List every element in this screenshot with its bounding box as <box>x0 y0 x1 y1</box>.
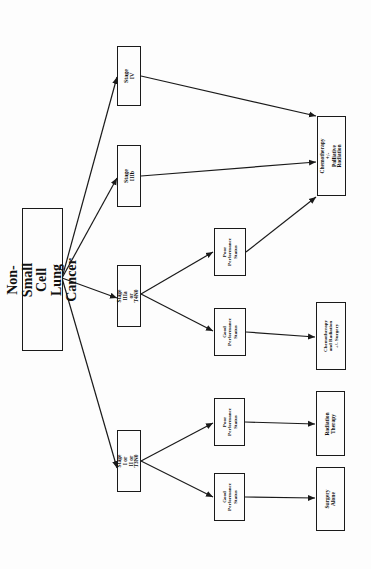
node-surgery-alone: Surgery Alone <box>316 467 345 531</box>
node-label: Stage IIIa or T4N0 <box>117 289 140 302</box>
edge-good3a-chemo-rad <box>246 332 315 337</box>
node-label: Good Performance Status <box>222 483 238 511</box>
edge-poor12-radiation <box>245 422 315 424</box>
node-label: Chemotherapy and Radiation +/- Surgery <box>323 320 339 352</box>
node-nsclc-root: Non-Small Cell Lung Cancer <box>22 208 63 351</box>
edge-stage3a-good <box>141 294 213 331</box>
node-poor-performance-i-ii: Poor Performance Status <box>214 398 245 446</box>
node-label: Radiation Therapy <box>325 412 337 435</box>
node-label: Poor Performance Status <box>222 408 238 436</box>
node-stage-iv: Stage IV <box>117 46 141 106</box>
edge-root-stage12 <box>62 278 117 468</box>
diagram-canvas: Non-Small Cell Lung Cancer Stage IV Stag… <box>0 0 371 569</box>
node-label: Chemotherapy +/- Palliative Radiation <box>320 138 343 173</box>
node-radiation-therapy: Radiation Therapy <box>316 391 345 456</box>
edge-good12-surgery <box>245 497 315 498</box>
node-chemo-radiation-surgery: Chemotherapy and Radiation +/- Surgery <box>316 302 346 370</box>
node-label: Stage IV <box>123 69 136 83</box>
node-stage-i-ii-t3n0: Stage I or II or T3N0 <box>117 430 141 492</box>
node-good-performance-iiia: Good Performance Status <box>214 308 246 356</box>
node-label: Non-Small Cell Lung Cancer <box>6 258 79 302</box>
edge-stage12-good <box>141 461 213 497</box>
node-stage-iiia-t4n0: Stage IIIa or T4N0 <box>117 265 141 327</box>
node-label: Poor Performance Status <box>222 238 238 266</box>
node-poor-performance-iiia: Poor Performance Status <box>214 228 246 276</box>
node-good-performance-i-ii: Good Performance Status <box>214 473 245 521</box>
edge-poor3a-chemo-pall <box>246 197 316 252</box>
edge-stage4-chemo-pall <box>141 76 316 116</box>
node-label: Stage IIIb <box>123 169 136 183</box>
node-label: Surgery Alone <box>325 490 337 509</box>
node-label: Stage I or II or T3N0 <box>117 454 140 467</box>
node-label: Good Performance Status <box>222 318 238 346</box>
node-stage-iiib: Stage IIIb <box>117 145 141 207</box>
edge-stage3a-poor <box>141 252 213 294</box>
edge-stage3b-chemo-pall <box>141 162 316 176</box>
edge-root-stage4 <box>62 77 117 278</box>
node-chemo-palliative-radiation: Chemotherapy +/- Palliative Radiation <box>317 116 346 196</box>
edge-stage12-poor <box>141 423 213 461</box>
